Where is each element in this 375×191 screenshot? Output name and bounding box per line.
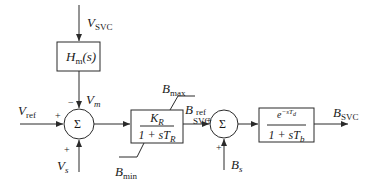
delay-numerator: e−sTd <box>259 110 314 120</box>
bs-label: Bs <box>231 158 242 171</box>
bmax-label: Bmax <box>162 82 185 95</box>
sum1-sign-bottom: + <box>64 145 70 155</box>
bsvc-output-label: BSVC <box>333 106 358 119</box>
regulator-denominator: 1 + sTR <box>131 129 183 141</box>
sum1-sigma: Σ <box>74 118 81 130</box>
sum1-sign-left: + <box>55 111 61 121</box>
vsvc-label: VSVC <box>87 16 112 29</box>
sum1-sign-top: − <box>68 98 74 108</box>
delay-denominator: 1 + sTb <box>259 129 314 141</box>
regulator-numerator: KR <box>131 112 183 124</box>
svc-block-diagram: VSVC Hm(s) Vm Vref Vs Σ − + + KR 1 + sTR… <box>0 0 375 191</box>
hm-block-label: Hm(s) <box>66 50 96 63</box>
vm-label: Vm <box>86 93 100 106</box>
vs-label: Vs <box>57 159 68 172</box>
sum2-sign-bottom: + <box>216 143 222 153</box>
bmin-limit-line <box>119 143 144 157</box>
bmin-label: Bmin <box>115 165 137 178</box>
vref-label: Vref <box>18 104 36 117</box>
sum2-sign-left: + <box>206 116 212 126</box>
sum2-sigma: Σ <box>219 118 226 130</box>
